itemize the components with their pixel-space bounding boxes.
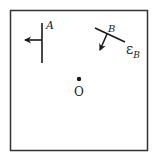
element-a: A	[25, 19, 54, 63]
element-b-arrow	[100, 34, 107, 50]
origin-label: O	[74, 85, 84, 99]
field-b-subscript: B	[132, 50, 140, 60]
field-b-symbol: ε	[126, 41, 133, 57]
element-a-label: A	[45, 19, 54, 32]
element-b: B εB	[95, 23, 140, 60]
origin-dot	[77, 77, 81, 81]
origin-point: O	[74, 77, 84, 99]
element-b-label: B	[107, 23, 115, 34]
diagram-canvas: A B εB O	[0, 0, 159, 160]
field-b-label: εB	[126, 41, 140, 60]
